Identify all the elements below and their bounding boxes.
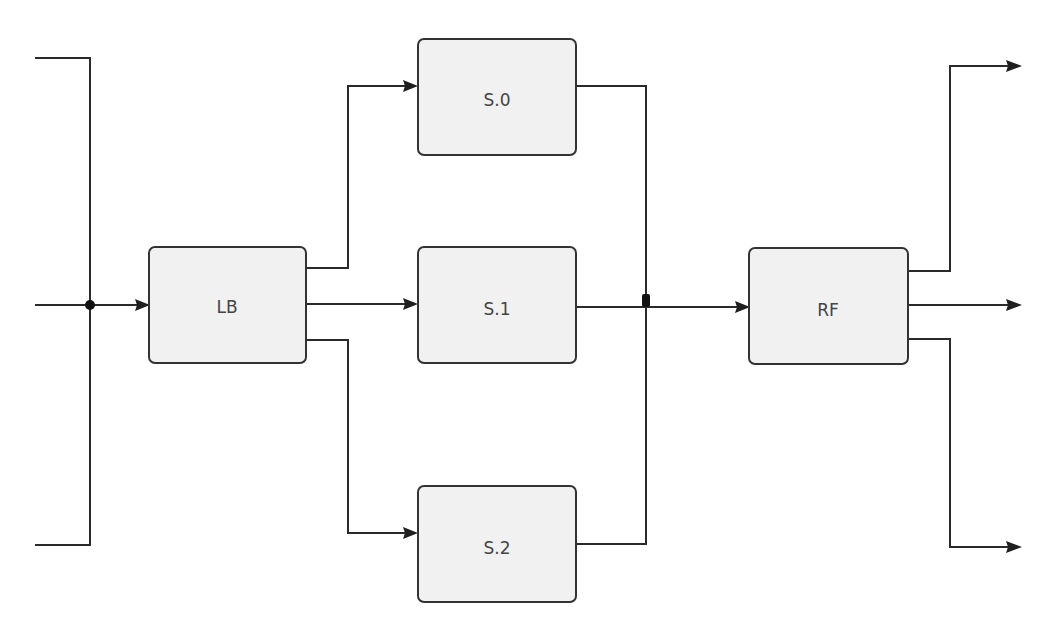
arrow-to-s1: [403, 298, 418, 310]
block-s2-label: S.2: [483, 538, 510, 558]
arrow-to-s2: [403, 527, 418, 539]
arrow-to-s0: [403, 80, 418, 92]
input-bottom-wire: [35, 305, 90, 545]
block-rf[interactable]: RF: [749, 248, 908, 364]
block-s1-label: S.1: [483, 299, 510, 319]
output-middle-arrow: [1006, 299, 1022, 311]
output-bottom-arrow: [1006, 541, 1022, 553]
block-s2[interactable]: S.2: [418, 486, 576, 602]
output-top-arrow: [1006, 60, 1022, 72]
rf-output-bottom-wire: [908, 339, 1010, 547]
merge-junction-dot: [642, 294, 650, 307]
block-s0[interactable]: S.0: [418, 39, 576, 155]
block-rf-label: RF: [817, 300, 839, 320]
rf-output-top-wire: [908, 66, 1010, 271]
lb-to-s2-wire: [305, 340, 408, 533]
block-lb-label: LB: [216, 297, 237, 317]
input-top-wire: [35, 58, 90, 305]
block-s0-label: S.0: [483, 90, 510, 110]
block-s1[interactable]: S.1: [418, 247, 576, 363]
input-junction-dot: [85, 300, 95, 310]
lb-to-s0-wire: [305, 86, 408, 268]
s0-to-merge-wire: [576, 86, 646, 307]
arrow-to-rf: [735, 301, 750, 313]
s2-to-merge-wire: [576, 307, 646, 544]
block-lb[interactable]: LB: [149, 247, 306, 363]
arrow-to-lb: [135, 299, 150, 311]
block-diagram: LB S.0 S.1 S.2 RF: [0, 0, 1056, 627]
